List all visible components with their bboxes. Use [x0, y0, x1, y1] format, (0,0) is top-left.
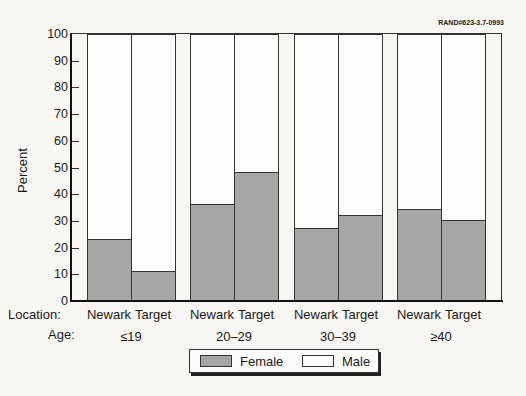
location-label: Target [128, 307, 178, 322]
y-tick-label: 10 [38, 268, 68, 280]
location-label: Newark [394, 307, 444, 322]
bar-newark [397, 34, 442, 301]
legend-swatch-male [302, 355, 334, 367]
bar-target [131, 34, 176, 301]
bar-newark [87, 34, 132, 301]
y-tick-label: 50 [38, 162, 68, 174]
y-tick-label: 60 [38, 135, 68, 147]
bar-segment-female [132, 271, 175, 300]
bar-segment-female [339, 215, 382, 300]
bar-segment-female [191, 204, 234, 300]
bar-segment-female [398, 209, 441, 300]
figure-id: RAND#623-3.7-0993 [438, 19, 504, 26]
bar-segment-female [295, 228, 338, 300]
bar-target [441, 34, 486, 301]
location-label: Target [231, 307, 281, 322]
age-group-label: 20–29 [199, 329, 269, 344]
legend: Female Male [189, 349, 379, 373]
age-row-label: Age: [48, 327, 75, 342]
bar-segment-female [235, 172, 278, 300]
legend-swatch-female [200, 355, 232, 367]
bar-segment-female [88, 239, 131, 300]
y-axis-line [70, 33, 72, 302]
bar-newark [294, 34, 339, 301]
y-axis-title: Percent [15, 141, 30, 201]
bar-target [234, 34, 279, 301]
bar-target [338, 34, 383, 301]
y-tick-label: 100 [38, 28, 68, 40]
location-label: Newark [84, 307, 134, 322]
age-group-label: 30–39 [303, 329, 373, 344]
location-label: Newark [291, 307, 341, 322]
legend-label-female: Female [240, 354, 283, 369]
legend-label-male: Male [342, 354, 370, 369]
y-tick-label: 40 [38, 188, 68, 200]
age-group-label: ≤19 [96, 329, 166, 344]
bar-newark [190, 34, 235, 301]
y-tick-label: 20 [38, 242, 68, 254]
y-tick-label: 30 [38, 215, 68, 227]
location-label: Newark [187, 307, 237, 322]
location-label: Target [438, 307, 488, 322]
bar-segment-female [442, 220, 485, 300]
location-row-label: Location: [8, 307, 61, 322]
age-group-label: ≥40 [406, 329, 476, 344]
y-tick-label: 70 [38, 108, 68, 120]
x-axis-line [70, 300, 503, 302]
y-tick-label: 90 [38, 55, 68, 67]
location-label: Target [335, 307, 385, 322]
y-tick-label: 80 [38, 81, 68, 93]
y-tick-label: 0 [38, 295, 68, 307]
